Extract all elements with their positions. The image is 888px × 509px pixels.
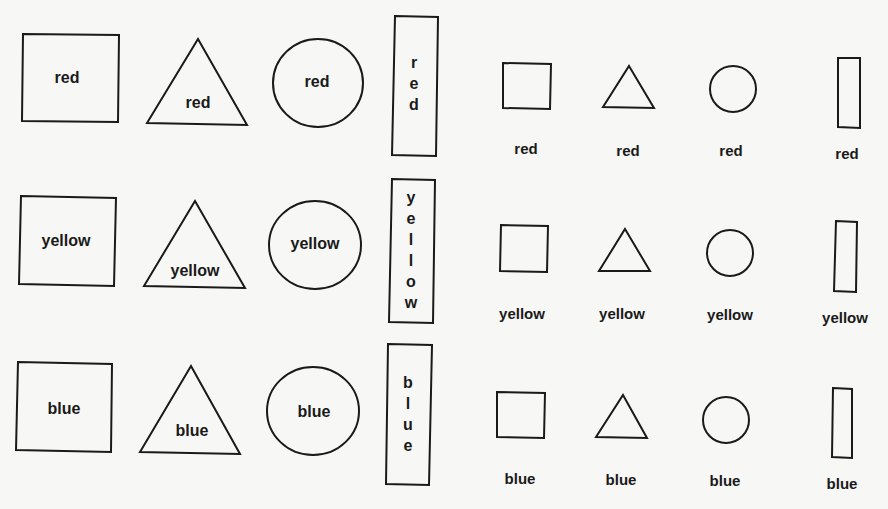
letter: l (409, 229, 413, 250)
square-caption: yellow (499, 306, 545, 321)
square-shape (497, 392, 545, 438)
letter: l (406, 393, 410, 414)
tall-rectangle-shape (838, 58, 860, 128)
circle-shape (703, 397, 749, 443)
letter: y (407, 187, 416, 208)
circle-label: yellow (291, 236, 340, 252)
letter: r (411, 52, 417, 73)
letter: d (409, 94, 419, 115)
triangle-shape (147, 39, 247, 125)
triangle-label: yellow (171, 263, 220, 279)
rectangle-caption: yellow (822, 310, 868, 325)
letter: e (410, 73, 419, 94)
letter: o (406, 271, 416, 292)
triangle-caption: red (616, 143, 639, 158)
vertical-rectangle-label: r e d (409, 52, 419, 115)
square-label: yellow (42, 233, 91, 249)
letter: e (407, 208, 416, 229)
letter: l (409, 250, 413, 271)
letter: b (403, 372, 413, 393)
vertical-rectangle-label: y e l l o w (405, 187, 417, 313)
vertical-rectangle-label: b l u e (403, 372, 413, 456)
triangle-shape (599, 229, 650, 271)
circle-shape (710, 66, 756, 112)
square-caption: blue (505, 471, 536, 486)
triangle-label: blue (176, 423, 209, 439)
row-yellow-right-group (500, 221, 857, 292)
square-shape (503, 63, 551, 109)
rectangle-caption: blue (827, 476, 858, 491)
circle-caption: red (719, 143, 742, 158)
triangle-shape (596, 395, 647, 438)
letter: e (404, 435, 413, 456)
row-red-right-group (503, 58, 860, 128)
circle-caption: blue (710, 473, 741, 488)
letter: w (405, 292, 417, 313)
circle-caption: yellow (707, 307, 753, 322)
square-label: blue (48, 401, 81, 417)
triangle-label: red (186, 95, 211, 111)
square-shape (500, 225, 548, 272)
triangle-shape (603, 66, 654, 108)
shapes-diagram (0, 0, 888, 509)
row-red-left-group (22, 16, 438, 156)
rectangle-caption: red (835, 146, 858, 161)
circle-label: red (305, 74, 330, 90)
square-label: red (55, 70, 80, 86)
triangle-caption: yellow (599, 306, 645, 321)
row-blue-right-group (497, 388, 852, 458)
tall-rectangle-shape (832, 388, 852, 458)
row-yellow-left-group (19, 179, 435, 323)
circle-shape (707, 230, 753, 276)
tall-rectangle-shape (834, 221, 857, 292)
circle-label: blue (298, 404, 331, 420)
letter: u (403, 414, 413, 435)
square-caption: red (514, 141, 537, 156)
triangle-shape (140, 366, 240, 454)
triangle-caption: blue (606, 472, 637, 487)
